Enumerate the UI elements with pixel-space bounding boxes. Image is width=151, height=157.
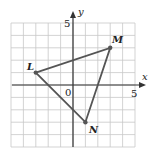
- y-axis-label: y: [77, 6, 84, 17]
- vertex-point-M: [108, 46, 112, 50]
- x-axis-label: x: [142, 71, 148, 82]
- coordinate-grid: x y 5 5 0 L M N: [0, 0, 151, 157]
- axes: [12, 11, 146, 147]
- y-axis-arrow-icon: [70, 11, 76, 18]
- vertex-label-N: N: [88, 124, 99, 135]
- vertex-point-L: [34, 70, 38, 74]
- origin-label: 0: [65, 87, 71, 98]
- x-axis-arrow-icon: [139, 82, 146, 88]
- vertex-point-N: [83, 120, 87, 124]
- vertex-label-L: L: [26, 61, 34, 72]
- coordinate-plane-figure: x y 5 5 0 L M N: [0, 0, 151, 157]
- x-tick-label: 5: [131, 88, 137, 99]
- vertex-label-M: M: [111, 34, 124, 45]
- y-tick-label: 5: [64, 18, 70, 29]
